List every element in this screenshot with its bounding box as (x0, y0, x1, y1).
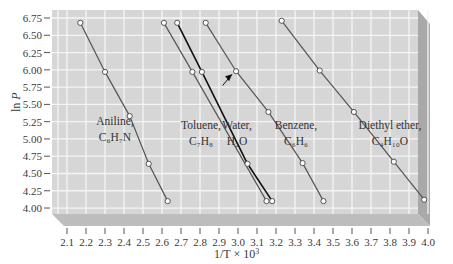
data-point (203, 20, 208, 25)
vapor-pressure-chart: 6.756.506.256.005.755.505.255.004.754.50… (0, 0, 453, 264)
y-axis-title: ln P (9, 92, 23, 112)
x-tick-label: 2.3 (98, 236, 112, 248)
x-axis-title: 1/T × 103 (214, 247, 259, 262)
series-label-name: Benzene, (275, 119, 318, 132)
x-tick-label: 3.9 (402, 236, 416, 248)
data-point (146, 161, 151, 166)
x-tick-label: 2.5 (136, 236, 150, 248)
y-tick-label: 6.50 (23, 29, 43, 41)
y-tick-label: 4.00 (23, 202, 43, 214)
data-point (190, 69, 195, 74)
series-label-formula: C₇H₈ (189, 135, 213, 147)
data-point (165, 199, 170, 204)
series-label-name: Aniline, (96, 115, 133, 128)
y-axis: 6.756.506.256.005.755.505.255.004.754.50… (23, 12, 50, 214)
series-label-formula: C₆H₇N (99, 131, 132, 143)
series-label-name: Water, (222, 119, 252, 132)
x-tick-label: 2.8 (193, 236, 207, 248)
data-point (102, 69, 107, 74)
x-tick-label: 2.6 (155, 236, 169, 248)
data-point (175, 20, 180, 25)
x-tick-label: 3.5 (326, 236, 340, 248)
data-point (264, 199, 269, 204)
x-tick-label: 3.3 (288, 236, 302, 248)
y-tick-label: 4.25 (23, 185, 43, 197)
y-tick-label: 5.50 (23, 98, 43, 110)
data-point (199, 69, 204, 74)
x-tick-label: 3.2 (269, 236, 283, 248)
y-tick-label: 4.75 (23, 150, 43, 162)
data-point (391, 159, 396, 164)
y-tick-label: 6.00 (23, 64, 43, 76)
data-point (270, 199, 275, 204)
x-tick-label: 3.8 (383, 236, 397, 248)
data-point (351, 109, 356, 114)
y-tick-label: 6.25 (23, 47, 43, 59)
series-label-name: Toluene, (181, 119, 221, 132)
data-point (245, 161, 250, 166)
data-point (78, 20, 83, 25)
plot-bottom-side (52, 214, 430, 226)
x-tick-label: 2.7 (174, 236, 188, 248)
x-tick-label: 4.0 (421, 236, 435, 248)
data-point (266, 109, 271, 114)
x-tick-label: 2.4 (117, 236, 131, 248)
data-point (300, 161, 305, 166)
x-tick-label: 2.2 (79, 236, 93, 248)
x-axis: 2.12.22.32.42.52.62.72.82.93.03.13.23.33… (60, 228, 435, 248)
y-tick-label: 5.00 (23, 133, 43, 145)
x-tick-label: 3.4 (307, 236, 321, 248)
data-point (279, 18, 284, 23)
x-tick-label: 3.7 (364, 236, 378, 248)
data-point (422, 197, 427, 202)
data-point (317, 68, 322, 73)
plot-area (52, 10, 418, 214)
data-point (321, 199, 326, 204)
y-tick-label: 4.50 (23, 167, 43, 179)
x-tick-label: 3.6 (345, 236, 359, 248)
series-label-name: Diethyl ether, (359, 119, 422, 132)
y-tick-label: 6.75 (23, 12, 43, 24)
series-label-formula: C₆H₆ (284, 135, 308, 147)
series-label-formula: H₂O (227, 135, 248, 147)
series-label-formula: C₄H₁₀O (372, 135, 408, 147)
data-point (234, 69, 239, 74)
y-tick-label: 5.75 (23, 81, 43, 93)
data-point (161, 20, 166, 25)
x-tick-label: 2.1 (60, 236, 74, 248)
y-tick-label: 5.25 (23, 116, 43, 128)
